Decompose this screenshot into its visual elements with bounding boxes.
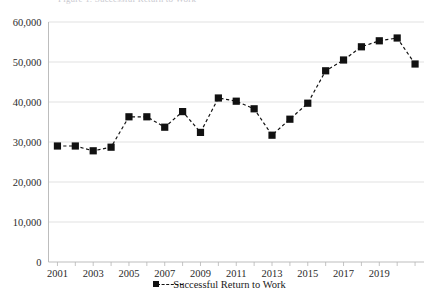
data-point-2011	[233, 98, 240, 105]
gridlines	[49, 22, 425, 262]
x-axis-tick-marks	[57, 262, 415, 266]
data-point-2017	[340, 56, 347, 63]
data-point-2005	[125, 113, 132, 120]
data-point-2021	[411, 60, 418, 67]
data-point-2004	[107, 144, 114, 151]
data-point-2010	[215, 94, 222, 101]
square-marker-icon	[144, 280, 170, 289]
plot-area: 010,00020,00030,00040,00050,00060,000 20…	[0, 0, 430, 298]
data-point-2012	[251, 105, 258, 112]
data-point-2020	[394, 34, 401, 41]
data-point-2015	[304, 100, 311, 107]
chart-figure: Figure 1. Successful Return to Work 010,…	[0, 0, 430, 298]
y-tick-label-60000: 60,000	[13, 17, 42, 28]
y-tick-label-50000: 50,000	[13, 57, 42, 68]
data-point-2019	[376, 37, 383, 44]
chart-svg: 010,00020,00030,00040,00050,00060,000 20…	[0, 0, 430, 298]
data-point-2018	[358, 43, 365, 50]
chart-legend: Successful Return to Work	[0, 276, 430, 291]
y-tick-label-30000: 30,000	[13, 137, 42, 148]
y-tick-label-40000: 40,000	[13, 97, 42, 108]
y-axis-tick-labels: 010,00020,00030,00040,00050,00060,000	[13, 17, 42, 268]
data-point-2003	[90, 147, 97, 154]
y-tick-label-20000: 20,000	[13, 177, 42, 188]
data-point-2002	[72, 142, 79, 149]
legend-entry-successful-return-to-work: Successful Return to Work	[144, 277, 285, 291]
legend-label: Successful Return to Work	[173, 278, 285, 291]
data-point-2001	[54, 142, 61, 149]
data-point-2008	[179, 108, 186, 115]
data-series-successful-return-to-work	[54, 34, 419, 154]
series-line	[57, 38, 415, 151]
data-point-2009	[197, 129, 204, 136]
y-tick-label-10000: 10,000	[13, 217, 42, 228]
data-point-2014	[286, 116, 293, 123]
data-point-2013	[268, 132, 275, 139]
data-point-2006	[143, 113, 150, 120]
y-tick-label-0: 0	[36, 257, 41, 268]
data-point-2016	[322, 67, 329, 74]
data-point-2007	[161, 124, 168, 131]
